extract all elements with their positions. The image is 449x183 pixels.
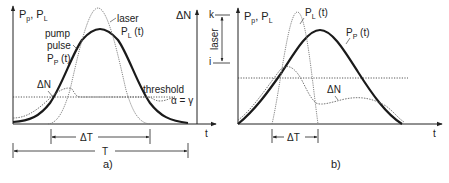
delta-t-label-a: ΔT <box>80 132 93 143</box>
delta-n-curve-b <box>238 67 404 122</box>
x-axis-label-b: t <box>433 128 436 139</box>
laser-leader-a <box>110 18 116 22</box>
pump-pulse-curve-a <box>13 29 188 123</box>
caption-b: b) <box>331 158 341 170</box>
threshold-label: threshold <box>143 84 184 95</box>
panel-a: Pp, PL threshold ΔN laser PL (t) pump pu… <box>13 6 216 170</box>
laser-pulse-curve-b <box>272 12 318 124</box>
delta-n-leader-a <box>48 91 53 97</box>
level-inset: ΔN k i laser α = γ <box>171 9 230 124</box>
delta-n-leader-b <box>335 96 338 100</box>
laser-label-a: laser <box>117 13 139 24</box>
level-i-label: i <box>209 56 211 67</box>
pulse-label-a: pulse <box>47 40 71 51</box>
laser-transition-label: laser <box>209 28 220 50</box>
y-axis-label-a: Pp, PL <box>19 8 48 23</box>
pump-pp-label-b: PP (t) <box>346 27 370 40</box>
pump-pulse-curve-b <box>238 30 402 124</box>
panel-b: Pp, PL ΔN PL (t) PP (t) t ΔT b) <box>238 7 442 170</box>
laser-pl-label-b: PL (t) <box>305 7 328 20</box>
delta-t-label-b: ΔT <box>287 132 300 143</box>
delta-n-axis-label: ΔN <box>176 9 191 21</box>
level-k-label: k <box>209 9 215 20</box>
x-axis-label-a: t <box>205 128 208 139</box>
delta-n-label-b: ΔN <box>327 84 341 95</box>
y-axis-label-b: Pp, PL <box>244 10 273 25</box>
alpha-gamma-label: α = γ <box>171 95 193 106</box>
period-label: T <box>102 146 108 157</box>
laser-pulse-diagram: Pp, PL threshold ΔN laser PL (t) pump pu… <box>0 0 449 183</box>
laser-leader-b <box>300 18 304 24</box>
caption-a: a) <box>103 158 113 170</box>
pump-label-a: pump <box>45 28 70 39</box>
pump-pp-label-a: PP (t) <box>47 53 71 66</box>
laser-pl-label-a: PL (t) <box>121 26 144 39</box>
pump-leader-b <box>346 38 350 44</box>
delta-n-label-a: ΔN <box>37 79 51 90</box>
